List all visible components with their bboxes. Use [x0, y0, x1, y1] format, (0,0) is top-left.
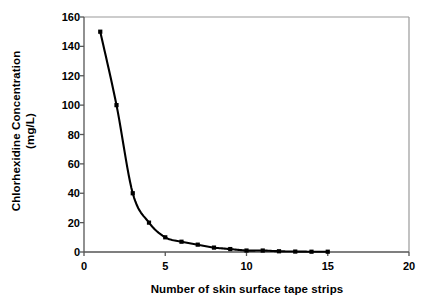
- data-point-marker: [309, 250, 313, 254]
- data-markers: [98, 30, 330, 254]
- data-point-marker: [277, 249, 281, 253]
- data-point-marker: [212, 245, 216, 249]
- chart-figure: Chlorhexidine Concentration (mg/L) 02040…: [0, 0, 427, 308]
- data-point-marker: [244, 248, 248, 252]
- data-line: [100, 32, 328, 252]
- x-axis-tick-label: 10: [227, 260, 267, 272]
- x-axis-tick-label: 0: [64, 260, 104, 272]
- data-point-marker: [179, 240, 183, 244]
- data-point-marker: [114, 103, 118, 107]
- data-point-marker: [147, 221, 151, 225]
- data-point-marker: [228, 247, 232, 251]
- data-point-marker: [98, 30, 102, 34]
- x-axis-tick-label: 20: [389, 260, 427, 272]
- data-point-marker: [131, 191, 135, 195]
- data-point-marker: [196, 243, 200, 247]
- data-point-marker: [326, 250, 330, 254]
- x-axis-label: Number of skin surface tape strips: [84, 283, 410, 295]
- x-axis-tick-label: 5: [145, 260, 185, 272]
- axes-frame: [84, 17, 409, 252]
- x-axis-tick-label: 15: [308, 260, 348, 272]
- data-point-marker: [163, 235, 167, 239]
- data-point-marker: [293, 249, 297, 253]
- data-point-marker: [261, 248, 265, 252]
